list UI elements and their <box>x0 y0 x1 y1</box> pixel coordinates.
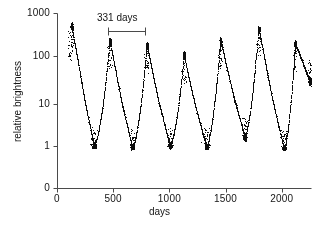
x-tick-label-2000: 2000 <box>266 193 298 204</box>
x-tick-label-1000: 1000 <box>153 193 185 204</box>
period-annotation-label: 331 days <box>97 12 138 23</box>
light-curve-figure: relative brightness days 331 days 1000 1… <box>0 0 319 227</box>
y-tick-label-100: 100 <box>0 50 50 61</box>
y-tick-label-10: 10 <box>0 98 50 109</box>
y-tick-label-1000: 1000 <box>0 7 50 18</box>
x-tick-label-500: 500 <box>97 193 129 204</box>
y-tick-label-1: 1 <box>0 140 50 151</box>
x-tick-label-1500: 1500 <box>210 193 242 204</box>
x-axis-label: days <box>0 206 319 217</box>
y-tick-label-0: 0 <box>0 182 50 193</box>
x-tick-label-0: 0 <box>41 193 73 204</box>
